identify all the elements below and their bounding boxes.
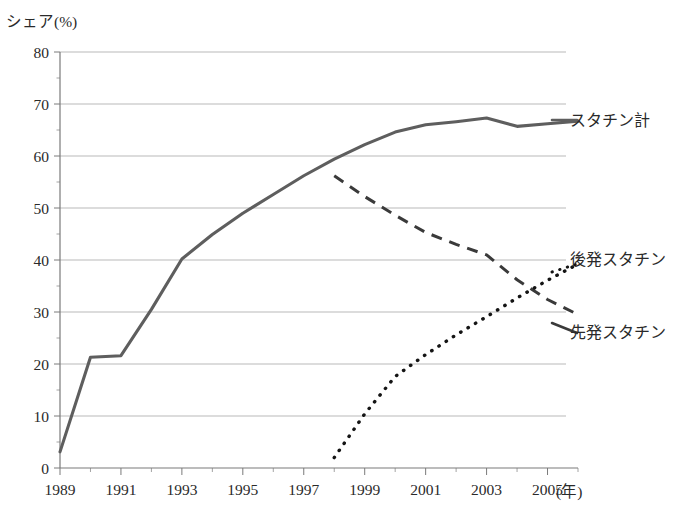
y-tick-label: 40 [34, 252, 50, 269]
x-tick-label: 2001 [410, 481, 441, 498]
y-axis-ticks [54, 52, 60, 468]
x-tick-label: 1999 [349, 481, 380, 498]
x-tick-label: 2003 [471, 481, 502, 498]
series-line-generic [334, 264, 578, 457]
x-tick-label: 1991 [105, 481, 136, 498]
x-tick-label: 1997 [288, 481, 319, 498]
y-axis-title: シェア(%) [6, 13, 77, 31]
y-tick-label: 10 [34, 408, 50, 425]
x-axis-ticks [60, 468, 578, 475]
series-label-generic: 後発スタチン [570, 251, 666, 268]
y-tick-label: 70 [34, 96, 50, 113]
y-tick-label: 80 [34, 44, 50, 61]
y-tick-label: 20 [34, 356, 50, 373]
gridlines [60, 52, 566, 416]
x-tick-label: 1993 [166, 481, 197, 498]
y-axis-tick-labels: 01020304050607080 [34, 44, 50, 477]
share-line-chart: シェア(%) 01020304050607080 198919911993199… [0, 0, 690, 525]
y-tick-label: 60 [34, 148, 50, 165]
y-tick-label: 0 [41, 460, 49, 477]
x-axis-tick-labels: 198919911993199519971999200120032005 [45, 481, 564, 498]
series-line-brand [334, 176, 578, 315]
x-axis-title: (年) [556, 483, 582, 501]
series-line-total [60, 118, 578, 452]
chart-container: シェア(%) 01020304050607080 198919911993199… [0, 0, 690, 525]
y-tick-label: 50 [34, 200, 50, 217]
x-tick-label: 1995 [227, 481, 258, 498]
y-tick-label: 30 [34, 304, 50, 321]
series-layer [60, 118, 578, 458]
series-label-total: スタチン計 [570, 112, 650, 129]
series-label-brand: 先発スタチン [570, 324, 666, 341]
x-tick-label: 1989 [45, 481, 76, 498]
